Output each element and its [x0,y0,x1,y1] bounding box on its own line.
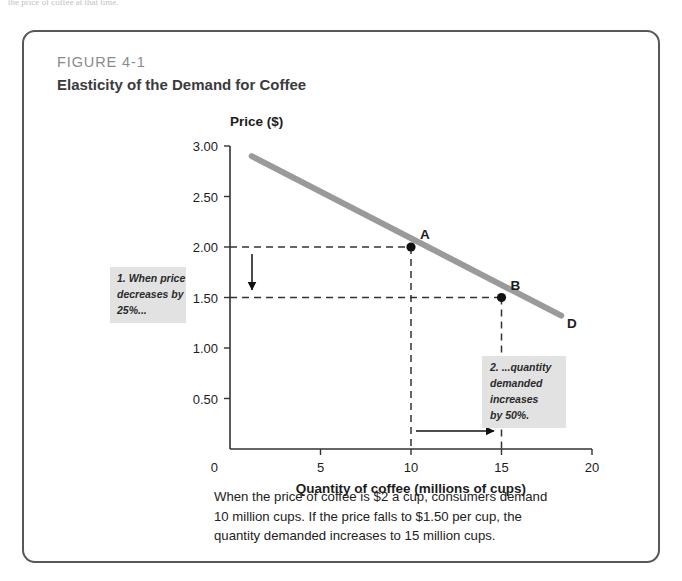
x-axis-tick-labels: 5 10 15 20 [317,460,599,475]
annotation-note-1: 1. When price decreases by 25%... [110,267,188,323]
svg-text:10: 10 [404,460,418,475]
point-a-marker [406,242,415,251]
demand-curve-label: D [567,316,577,331]
svg-text:3.00: 3.00 [193,139,218,154]
point-a-label: A [420,227,430,242]
svg-text:1.00: 1.00 [193,341,218,356]
demand-curve-chart: Price ($) 3.00 2.50 2.00 1.50 1.00 0.50 [24,32,662,565]
svg-text:15: 15 [494,460,508,475]
svg-text:1.50: 1.50 [193,291,218,306]
figure-caption: When the price of coffee is $2 a cup, co… [214,487,614,546]
y-axis-ticks [224,146,230,399]
guide-lines [230,247,502,449]
svg-text:2.50: 2.50 [193,190,218,205]
caption-line-2: 10 million cups. If the price falls to $… [214,507,614,527]
annotation-note-2: 2. ...quantity demanded increases by 50%… [482,356,566,428]
y-axis-title: Price ($) [230,114,283,129]
svg-text:0.50: 0.50 [193,392,218,407]
point-b-label: B [511,278,521,293]
point-b-marker [497,293,506,302]
figure-container: FIGURE 4-1 Elasticity of the Demand for … [22,30,660,563]
x-axis-ticks [321,449,593,455]
caption-line-3: quantity demanded increases to 15 millio… [214,526,614,546]
y-axis-tick-labels: 3.00 2.50 2.00 1.50 1.00 0.50 0 [193,139,218,475]
caption-line-1: When the price of coffee is $2 a cup, co… [214,487,614,507]
svg-text:5: 5 [317,460,324,475]
page-body-text-fragment: the price of coffee at that time. [8,0,238,8]
svg-text:0: 0 [211,460,218,475]
svg-text:20: 20 [585,460,599,475]
svg-text:2.00: 2.00 [193,240,218,255]
